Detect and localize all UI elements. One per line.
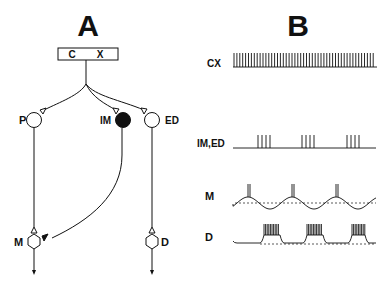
cx-box-right-label: X <box>97 49 104 60</box>
panel-a-title: A <box>77 9 99 42</box>
cx-box-left-label: C <box>68 49 75 60</box>
p-to-m-synapse-icon <box>31 227 37 233</box>
im-to-m-inhibitory-synapse-icon <box>42 234 48 241</box>
neuron-ed <box>145 113 160 128</box>
trace-d <box>233 224 376 244</box>
trace-label-m: M <box>205 190 214 202</box>
neuron-ed-label: ED <box>165 115 179 126</box>
trace-im-ed <box>233 135 376 148</box>
neuron-m-label: M <box>14 236 23 248</box>
output-arrows <box>34 249 152 272</box>
panel-b-title: B <box>287 9 309 42</box>
axons <box>34 128 152 238</box>
d-output-arrow-icon <box>150 270 154 275</box>
cx-box: C X <box>58 48 118 60</box>
neuron-im-label: IM <box>100 115 111 126</box>
neuron-im <box>116 113 131 128</box>
excitatory-synapse-icons <box>40 108 147 114</box>
trace-label-im-ed: IM,ED <box>197 138 225 149</box>
trace-cx <box>233 53 377 67</box>
trace-label-cx: CX <box>207 58 221 69</box>
neuron-m <box>28 234 40 249</box>
ed-to-d-synapse-icon <box>149 227 155 233</box>
neuron-p <box>27 113 42 128</box>
figure: A C X P IM ED M D <box>0 0 386 283</box>
neuron-d-label: D <box>161 236 169 248</box>
m-output-arrow-icon <box>32 270 36 275</box>
neuron-d <box>146 234 158 249</box>
trace-m <box>233 184 376 209</box>
cx-projection <box>44 60 144 110</box>
neuron-p-label: P <box>19 114 26 126</box>
trace-label-d: D <box>205 231 213 243</box>
